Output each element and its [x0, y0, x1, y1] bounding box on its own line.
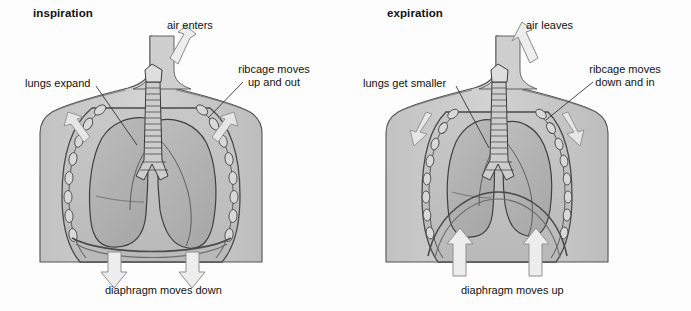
label-lungs-get-smaller: lungs get smaller: [363, 77, 446, 90]
label-air-leaves: air leaves: [526, 19, 573, 32]
expiration-illustration: [346, 0, 691, 311]
panel-title-inspiration: inspiration: [33, 7, 93, 19]
label-diaphragm-moves-down: diaphragm moves down: [105, 284, 222, 297]
inspiration-illustration: [0, 0, 345, 311]
label-lungs-expand: lungs expand: [25, 77, 90, 90]
label-diaphragm-moves-up: diaphragm moves up: [461, 284, 564, 297]
label-ribcage-line1: ribcage moves: [576, 63, 674, 76]
panel-expiration: expiration air leaves lungs get smaller …: [346, 0, 691, 311]
label-ribcage-moves: ribcage moves down and in: [576, 63, 674, 88]
label-ribcage-line2: up and out: [226, 76, 322, 89]
label-ribcage-line1: ribcage moves: [226, 63, 322, 76]
respiration-diagram: inspiration air enters lungs expand ribc…: [0, 0, 691, 311]
label-ribcage-line2: down and in: [576, 76, 674, 89]
label-ribcage-moves: ribcage moves up and out: [226, 63, 322, 88]
panel-inspiration: inspiration air enters lungs expand ribc…: [0, 0, 345, 311]
panel-title-expiration: expiration: [387, 7, 443, 19]
label-air-enters: air enters: [167, 19, 213, 32]
